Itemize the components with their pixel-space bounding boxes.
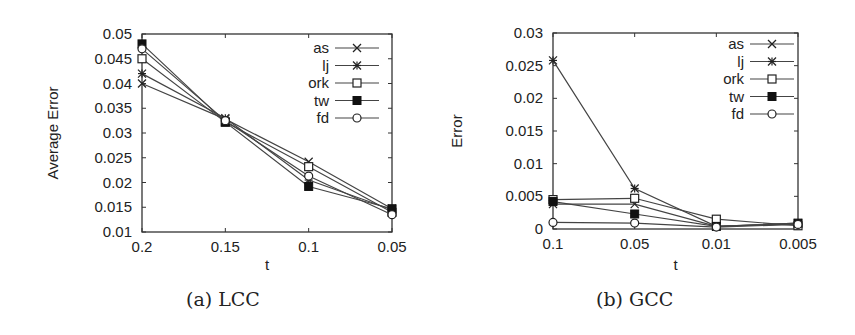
x-tick-label: 0.1 — [298, 238, 319, 255]
legend: asljorktwfd — [308, 39, 379, 126]
x-tick-label: 0.005 — [779, 235, 817, 252]
ork-marker-square-icon — [138, 55, 146, 63]
x-tick-label: 0.15 — [211, 238, 240, 255]
gcc-caption: (b) GCC — [596, 288, 673, 310]
x-tick-label: 0.1 — [543, 235, 564, 252]
legend-label-tw: tw — [314, 92, 329, 109]
lj-marker-star-icon — [549, 56, 557, 64]
legend-lj-marker-star-icon — [353, 62, 361, 70]
legend-label-fd: fd — [316, 109, 329, 126]
series-lj — [138, 70, 396, 214]
y-axis-label: Average Error — [44, 86, 61, 179]
legend-label-lj: lj — [322, 57, 329, 74]
fd-marker-circle-icon — [138, 45, 146, 53]
lj-marker-star-icon — [138, 70, 146, 78]
lcc-line-chart: 0.050.0450.040.0350.030.0250.020.0150.01… — [0, 0, 420, 335]
gcc-chart-panel: 0.030.0250.020.0150.010.00500.10.050.010… — [420, 0, 855, 335]
gcc-line-chart: 0.030.0250.020.0150.010.00500.10.050.010… — [420, 0, 855, 335]
legend-ork-marker-square-icon — [768, 75, 776, 83]
y-tick-label: 0.05 — [103, 25, 132, 42]
legend-label-tw: tw — [729, 88, 744, 105]
x-axis-label: t — [265, 256, 270, 273]
legend-label-as: as — [313, 39, 329, 56]
fd-marker-circle-icon — [388, 211, 396, 219]
lcc-caption: (a) LCC — [186, 288, 260, 310]
y-tick-label: 0.045 — [94, 50, 132, 67]
y-tick-label: 0.005 — [505, 187, 543, 204]
legend-fd-marker-circle-icon — [353, 114, 361, 122]
y-tick-label: 0.015 — [505, 122, 543, 139]
y-tick-label: 0.01 — [103, 223, 132, 240]
y-tick-label: 0.03 — [514, 24, 543, 41]
tw-marker-filled-square-icon — [631, 210, 639, 218]
x-tick-label: 0.05 — [377, 238, 406, 255]
y-tick-label: 0.01 — [514, 155, 543, 172]
y-tick-label: 0.035 — [94, 99, 132, 116]
ork-marker-square-icon — [305, 163, 313, 171]
x-tick-label: 0.01 — [702, 235, 731, 252]
legend-tw-marker-filled-square-icon — [353, 97, 361, 105]
legend-label-fd: fd — [731, 105, 744, 122]
legend-ork-marker-square-icon — [353, 79, 361, 87]
y-tick-label: 0.02 — [103, 174, 132, 191]
fd-marker-circle-icon — [221, 117, 229, 125]
legend: asljorktwfd — [723, 35, 794, 122]
tw-marker-filled-square-icon — [305, 182, 313, 190]
y-tick-label: 0.03 — [103, 124, 132, 141]
legend-label-ork: ork — [723, 70, 744, 87]
fd-marker-circle-icon — [305, 172, 313, 180]
legend-label-as: as — [728, 35, 744, 52]
legend-label-lj: lj — [737, 53, 744, 70]
tw-marker-filled-square-icon — [549, 198, 557, 206]
legend-label-ork: ork — [308, 74, 329, 91]
y-tick-label: 0.015 — [94, 198, 132, 215]
y-tick-label: 0.04 — [103, 75, 132, 92]
x-axis-label: t — [673, 256, 678, 273]
x-tick-label: 0.05 — [620, 235, 649, 252]
y-tick-label: 0.02 — [514, 89, 543, 106]
lj-marker-star-icon — [631, 184, 639, 192]
fd-marker-circle-icon — [549, 218, 557, 226]
lcc-chart-panel: 0.050.0450.040.0350.030.0250.020.0150.01… — [0, 0, 420, 335]
fd-marker-circle-icon — [794, 220, 802, 228]
y-tick-label: 0.025 — [505, 57, 543, 74]
y-tick-label: 0.025 — [94, 149, 132, 166]
fd-marker-circle-icon — [631, 219, 639, 227]
legend-lj-marker-star-icon — [768, 58, 776, 66]
x-tick-label: 0.2 — [132, 238, 153, 255]
y-axis-label: Error — [448, 114, 465, 147]
legend-tw-marker-filled-square-icon — [768, 93, 776, 101]
legend-fd-marker-circle-icon — [768, 110, 776, 118]
fd-marker-circle-icon — [712, 223, 720, 231]
ork-marker-square-icon — [631, 194, 639, 202]
